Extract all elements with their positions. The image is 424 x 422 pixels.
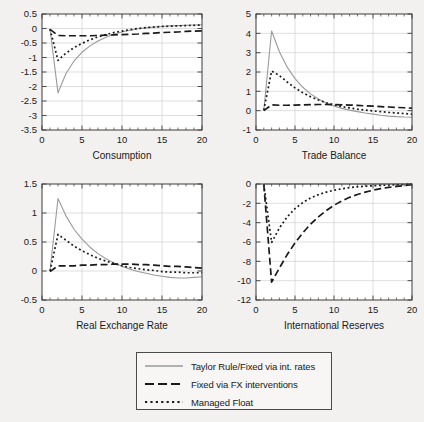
y-tick-label: 0.5 bbox=[24, 236, 37, 247]
legend-entry-solid: Taylor Rule/Fixed via int. rates bbox=[137, 357, 331, 375]
y-tick-label: -0.5 bbox=[21, 37, 37, 48]
y-tick-label: -6 bbox=[243, 236, 251, 247]
y-tick-label: -2.5 bbox=[21, 95, 37, 106]
x-tick-label: 0 bbox=[39, 304, 44, 315]
y-tick-label: 1.5 bbox=[24, 178, 37, 189]
x-tick-label: 10 bbox=[329, 304, 340, 315]
y-tick-label: -3.5 bbox=[21, 124, 37, 135]
x-tick-label: 5 bbox=[292, 134, 297, 145]
legend: Taylor Rule/Fixed via int. rates Fixed v… bbox=[136, 352, 332, 410]
legend-label-dashed: Fixed via FX interventions bbox=[191, 379, 298, 390]
y-tick-label: -4 bbox=[243, 217, 251, 228]
x-tick-label: 0 bbox=[253, 134, 258, 145]
y-tick-label: 1 bbox=[32, 207, 37, 218]
x-tick-label: 10 bbox=[117, 304, 128, 315]
chart-panel-real-exchange-rate: 051015201.510.50-0.5Real Exchange Rate bbox=[0, 172, 214, 340]
legend-label-dotted: Managed Float bbox=[191, 397, 253, 408]
y-tick-label: 1 bbox=[246, 86, 251, 97]
y-tick-label: -12 bbox=[237, 294, 251, 305]
y-tick-label: 3 bbox=[246, 47, 251, 58]
y-tick-label: 0 bbox=[32, 23, 37, 34]
y-tick-label: 0 bbox=[246, 105, 251, 116]
legend-line-dashed bbox=[144, 379, 184, 389]
x-tick-label: 15 bbox=[368, 304, 379, 315]
x-tick-label: 10 bbox=[329, 134, 340, 145]
y-tick-label: -3 bbox=[29, 110, 37, 121]
panel-grid: 051015200.50-0.5-1-1.5-2-2.5-3-3.5Consum… bbox=[0, 0, 424, 340]
y-tick-label: -0.5 bbox=[21, 294, 37, 305]
x-tick-label: 20 bbox=[197, 134, 208, 145]
x-tick-label: 20 bbox=[197, 304, 208, 315]
x-tick-label: 5 bbox=[292, 304, 297, 315]
y-tick-label: -1 bbox=[243, 124, 251, 135]
x-axis-label: Real Exchange Rate bbox=[76, 320, 168, 331]
x-tick-label: 5 bbox=[79, 304, 84, 315]
x-tick-label: 20 bbox=[407, 304, 418, 315]
y-tick-label: 2 bbox=[246, 66, 251, 77]
x-tick-label: 10 bbox=[117, 134, 128, 145]
y-tick-label: -8 bbox=[243, 256, 251, 267]
x-tick-label: 15 bbox=[368, 134, 379, 145]
x-tick-label: 5 bbox=[79, 134, 84, 145]
y-tick-label: 4 bbox=[246, 28, 251, 39]
y-tick-label: 0 bbox=[246, 178, 251, 189]
x-axis-label: Consumption bbox=[93, 150, 152, 161]
chart-panel-consumption: 051015200.50-0.5-1-1.5-2-2.5-3-3.5Consum… bbox=[0, 2, 214, 170]
x-axis-label: International Reserves bbox=[284, 320, 384, 331]
y-tick-label: 0 bbox=[32, 265, 37, 276]
y-tick-label: 0.5 bbox=[24, 8, 37, 19]
x-tick-label: 0 bbox=[39, 134, 44, 145]
legend-line-dotted bbox=[144, 397, 184, 407]
y-tick-label: -2 bbox=[243, 198, 251, 209]
x-tick-label: 15 bbox=[157, 304, 168, 315]
y-tick-label: -2 bbox=[29, 81, 37, 92]
legend-entry-dotted: Managed Float bbox=[137, 393, 331, 411]
y-tick-label: -10 bbox=[237, 275, 251, 286]
chart-panel-international-reserves: 051015200-2-4-6-8-10-12International Res… bbox=[214, 172, 424, 340]
x-tick-label: 20 bbox=[407, 134, 418, 145]
legend-label-solid: Taylor Rule/Fixed via int. rates bbox=[191, 361, 315, 372]
x-tick-label: 15 bbox=[157, 134, 168, 145]
y-tick-label: -1 bbox=[29, 52, 37, 63]
legend-entry-dashed: Fixed via FX interventions bbox=[137, 375, 331, 393]
x-tick-label: 0 bbox=[253, 304, 258, 315]
y-tick-label: -1.5 bbox=[21, 66, 37, 77]
y-tick-label: 5 bbox=[246, 8, 251, 19]
chart-panel-trade-balance: 05101520543210-1Trade Balance bbox=[214, 2, 424, 170]
legend-line-solid bbox=[144, 361, 184, 371]
x-axis-label: Trade Balance bbox=[302, 150, 367, 161]
